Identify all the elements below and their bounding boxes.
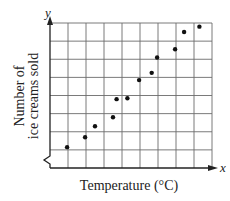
data-point — [150, 71, 154, 75]
y-axis-variable: y — [43, 5, 51, 20]
data-point — [111, 115, 115, 119]
x-axis-arrow-icon — [208, 165, 218, 171]
grid — [50, 23, 212, 168]
data-point — [173, 47, 177, 51]
data-point — [93, 124, 97, 128]
axes — [44, 16, 218, 171]
data-point — [137, 78, 141, 82]
data-point — [182, 30, 186, 34]
scatter-chart: y x Temperature (°C) Number of ice cream… — [0, 0, 230, 201]
data-points — [65, 24, 202, 149]
data-point — [125, 96, 129, 100]
x-axis-label: Temperature (°C) — [80, 178, 179, 194]
y-axis-label-line-1: Number of — [12, 65, 27, 126]
data-point — [155, 55, 159, 59]
data-point — [114, 97, 118, 101]
data-point — [197, 24, 201, 28]
y-axis — [44, 20, 50, 168]
data-point — [65, 145, 69, 149]
x-axis-variable: x — [219, 160, 226, 175]
data-point — [83, 135, 87, 139]
y-axis-label-line-2: ice creams sold — [26, 53, 41, 139]
